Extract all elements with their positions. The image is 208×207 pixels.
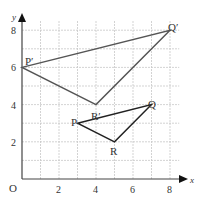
x-tick-label: 2: [56, 184, 61, 195]
y-tick-label: 4: [11, 100, 16, 111]
y-axis-label: y: [11, 12, 16, 22]
x-tick-label: 4: [93, 184, 98, 195]
x-axis-arrow-icon: [179, 175, 188, 183]
y-tick-label: 2: [11, 137, 16, 148]
label-r: R: [110, 145, 118, 157]
y-tick-label: 8: [11, 25, 16, 36]
y-tick-labels: 2468: [11, 25, 16, 148]
y-axis-arrow-icon: [18, 13, 26, 22]
x-tick-label: 6: [130, 184, 135, 195]
label-p: P: [71, 116, 77, 128]
label-q-prime: Q′: [168, 21, 178, 33]
x-tick-label: 8: [167, 184, 172, 195]
coordinate-diagram: x y O 2468 2468 P′ Q′ R′ P Q R: [0, 0, 208, 207]
x-axis-label: x: [189, 175, 194, 185]
x-tick-labels: 2468: [56, 184, 172, 195]
label-r-prime: R′: [91, 110, 101, 122]
label-q: Q: [148, 98, 156, 110]
label-p-prime: P′: [25, 55, 34, 67]
origin-label: O: [9, 182, 17, 194]
y-tick-label: 6: [11, 62, 16, 73]
